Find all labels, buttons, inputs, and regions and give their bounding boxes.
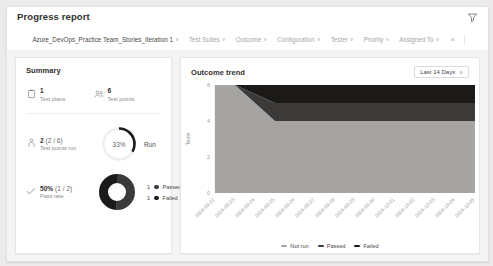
stat-value: 2 (2 / 6) [40, 137, 76, 145]
filter-configuration[interactable]: Configuration ∨ [272, 34, 325, 45]
person-run-icon [26, 138, 36, 149]
progress-report-window: Progress report Azure_DevOps_Practice Te… [6, 6, 489, 262]
filter-label: Tester [331, 36, 348, 43]
divider [464, 34, 465, 45]
stat-pass-rate: 50% (1 / 2) Pass rate [26, 185, 94, 200]
check-icon [26, 186, 36, 196]
svg-text:0: 0 [207, 190, 210, 196]
svg-text:2024-10-01: 2024-10-01 [373, 196, 395, 218]
legend-item: 1 Failed [146, 195, 181, 201]
filter-icon[interactable] [467, 12, 478, 23]
run-gauge: 33% [100, 125, 138, 163]
stat-label: Test points run [40, 145, 76, 152]
filter-assigned-to[interactable]: Assigned To ∨ [394, 34, 444, 45]
chevron-down-icon: ∨ [350, 37, 354, 42]
run-gauge-caption: Run [144, 141, 156, 148]
filter-label: Outcome [236, 36, 262, 43]
legend-label: Failed [363, 243, 378, 249]
chevron-down-icon: ∨ [317, 37, 321, 42]
date-range-select[interactable]: Last 14 Days ∨ [414, 66, 469, 78]
legend-count: 1 [146, 184, 150, 190]
filter-scope[interactable]: Azure_DevOps_Practice Team_Stories_Itera… [27, 34, 184, 45]
svg-text:2024-09-30: 2024-09-30 [353, 196, 375, 218]
filter-tester[interactable]: Tester ∨ [326, 34, 359, 45]
chevron-down-icon: ∨ [263, 37, 267, 42]
trend-header: Outcome trend Last 14 Days ∨ [181, 58, 479, 78]
stat-value: 6 [108, 87, 135, 95]
run-gauge-percent: 33% [100, 125, 138, 163]
stat-value: 1 [40, 87, 65, 95]
stat-value: 50% (1 / 2) [40, 185, 72, 193]
legend-swatch [354, 245, 360, 248]
stat-label: Test plans [40, 96, 65, 103]
svg-text:2024-10-03: 2024-10-03 [413, 196, 435, 218]
legend-dot [154, 196, 159, 201]
filter-scope-label: Azure_DevOps_Practice Team_Stories_Itera… [32, 36, 173, 43]
clipboard-icon [26, 88, 36, 99]
svg-text:2: 2 [207, 154, 210, 160]
divider [26, 113, 161, 114]
chevron-down-icon: ∨ [175, 37, 179, 42]
stat-test-plans: 1 Test plans [26, 87, 94, 102]
legend-label: Passed [163, 184, 182, 190]
report-content: Summary 1 Test plans [7, 50, 488, 261]
stat-number: 2 [40, 137, 44, 144]
people-icon [94, 88, 104, 99]
summary-counts-row: 1 Test plans 6 T [16, 87, 171, 102]
filter-test-suites[interactable]: Test Suites ∨ [184, 34, 231, 45]
svg-text:6: 6 [207, 82, 210, 88]
legend-label: Passed [327, 243, 346, 249]
pass-rate-row: 50% (1 / 2) Pass rate 1 Passe [16, 173, 171, 211]
outcome-trend-chart: 0246Tests2024-09-222024-09-232024-09-242… [181, 79, 479, 253]
filter-label: Assigned To [399, 36, 433, 43]
legend-count: 1 [146, 195, 150, 201]
chart-legend-item-failed: Failed [354, 243, 378, 249]
chevron-down-icon: ∨ [436, 37, 440, 42]
svg-text:2024-10-04: 2024-10-04 [433, 196, 455, 218]
stat-fraction: (1 / 2) [55, 185, 72, 192]
stat-number: 50% [40, 185, 53, 192]
outcome-trend-card: Outcome trend Last 14 Days ∨ 0246Tests20… [180, 57, 480, 254]
filter-label: Test Suites [189, 36, 220, 43]
legend-swatch [318, 245, 324, 248]
filter-label: Configuration [277, 36, 314, 43]
chevron-down-icon: ∨ [385, 37, 389, 42]
pass-rate-donut [98, 173, 136, 211]
svg-text:2024-10-02: 2024-10-02 [393, 196, 415, 218]
stat-test-points: 6 Test points [94, 87, 162, 102]
svg-text:4: 4 [207, 118, 210, 124]
clear-filters-icon[interactable]: × [444, 34, 460, 45]
chart-legend-item-passed: Passed [318, 243, 346, 249]
legend-label: Not run [290, 243, 308, 249]
filter-label: Priority [364, 36, 384, 43]
filter-priority[interactable]: Priority ∨ [359, 34, 395, 45]
filter-bar: Azure_DevOps_Practice Team_Stories_Itera… [7, 29, 488, 51]
page-title: Progress report [17, 11, 90, 22]
legend-dot [154, 185, 159, 190]
svg-text:2024-09-27: 2024-09-27 [293, 196, 315, 218]
filter-outcome[interactable]: Outcome ∨ [231, 34, 273, 45]
date-range-label: Last 14 Days [420, 69, 455, 75]
legend-swatch [281, 245, 287, 248]
summary-card: Summary 1 Test plans [15, 57, 172, 254]
svg-text:2024-10-05: 2024-10-05 [453, 196, 475, 218]
chart-legend-item-not-run: Not run [281, 243, 308, 249]
stat-fraction: (2 / 6) [46, 137, 63, 144]
stat-test-points-run: 2 (2 / 6) Test points run [26, 137, 98, 152]
stat-label: Pass rate [40, 193, 72, 200]
svg-text:2024-09-26: 2024-09-26 [273, 196, 295, 218]
svg-text:2024-09-29: 2024-09-29 [333, 196, 355, 218]
stat-label: Test points [108, 96, 135, 103]
svg-text:2024-09-22: 2024-09-22 [193, 196, 215, 218]
legend-item: 1 Passed [146, 184, 181, 190]
summary-title: Summary [16, 58, 171, 75]
chevron-down-icon: ∨ [459, 69, 463, 75]
svg-text:2024-09-25: 2024-09-25 [253, 196, 275, 218]
test-points-run-row: 2 (2 / 6) Test points run 33% Run [16, 125, 171, 163]
chevron-down-icon: ∨ [222, 37, 226, 42]
legend-label: Failed [163, 195, 178, 201]
svg-text:2024-09-28: 2024-09-28 [313, 196, 335, 218]
svg-text:2024-09-24: 2024-09-24 [233, 196, 255, 218]
pass-rate-legend: 1 Passed 1 Failed [146, 184, 181, 201]
svg-text:Tests: Tests [185, 132, 191, 145]
